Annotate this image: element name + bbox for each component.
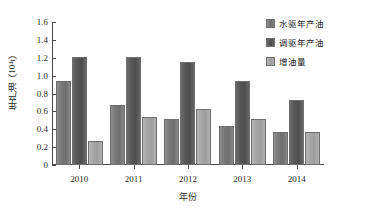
x-axis-tick-mark <box>188 165 189 169</box>
legend-label: 水驱年产油 <box>279 17 324 29</box>
bar <box>88 141 103 165</box>
bar-group <box>110 22 157 165</box>
y-axis-tick-label: 1.0 <box>8 70 48 82</box>
legend-item: 水驱年产油 <box>266 17 324 29</box>
bar <box>289 100 304 165</box>
y-axis-tick-label: 0 <box>8 159 48 171</box>
y-axis-tick-label: 1.2 <box>8 52 48 64</box>
bar <box>180 62 195 165</box>
x-axis-tick-mark <box>134 165 135 169</box>
chart-legend: 水驱年产油调驱年产油增油量 <box>266 17 324 67</box>
legend-item: 增油量 <box>266 55 324 67</box>
y-axis-tick-mark <box>52 165 56 166</box>
y-axis-tick-label: 0.4 <box>8 123 48 135</box>
x-axis-tick-label: 2013 <box>220 174 264 184</box>
x-axis-tick-mark <box>242 165 243 169</box>
x-axis-tick-mark <box>297 165 298 169</box>
x-axis-tick-label: 2014 <box>275 174 319 184</box>
bar <box>164 119 179 165</box>
bar <box>235 81 250 165</box>
y-axis-tick-label: 1.4 <box>8 34 48 46</box>
bar <box>196 109 211 165</box>
bar <box>219 126 234 165</box>
x-axis-tick-label: 2011 <box>112 174 156 184</box>
y-axis-tick-label: 0.2 <box>8 141 48 153</box>
bar <box>72 57 87 165</box>
bar <box>305 132 320 165</box>
bar-group <box>56 22 103 165</box>
legend-label: 增油量 <box>279 55 306 67</box>
legend-label: 调驱年产油 <box>279 36 324 48</box>
bar-chart: 年产油（10⁴t） 00.20.40.60.81.01.21.41.6 2010… <box>0 0 382 214</box>
bar-group <box>164 22 211 165</box>
y-axis-tick-label: 1.6 <box>8 16 48 28</box>
bar <box>251 119 266 165</box>
legend-item: 调驱年产油 <box>266 36 324 48</box>
bar <box>56 81 71 165</box>
bar <box>142 117 157 165</box>
bar <box>273 132 288 165</box>
bar <box>110 105 125 165</box>
legend-swatch <box>266 38 275 47</box>
legend-swatch <box>266 57 275 66</box>
legend-swatch <box>266 19 275 28</box>
x-axis-title: 年份 <box>52 190 324 203</box>
x-axis-tick-label: 2012 <box>166 174 210 184</box>
x-axis-tick-mark <box>79 165 80 169</box>
y-axis-tick-label: 0.8 <box>8 88 48 100</box>
y-axis-tick-label: 0.6 <box>8 105 48 117</box>
x-axis-tick-label: 2010 <box>57 174 101 184</box>
bar <box>126 57 141 165</box>
bar-group <box>219 22 266 165</box>
